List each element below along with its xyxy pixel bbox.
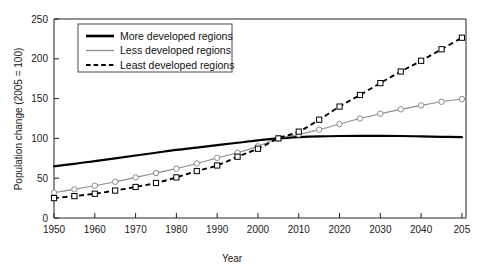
y-tick-label: 150 bbox=[31, 93, 48, 104]
x-tick-label: 1990 bbox=[206, 224, 229, 235]
x-tick-label: 1980 bbox=[165, 224, 188, 235]
legend-label-1[interactable]: Less developed regions bbox=[120, 44, 231, 56]
data-point-marker bbox=[398, 107, 403, 112]
y-tick-label: 0 bbox=[42, 213, 48, 224]
data-point-marker bbox=[316, 127, 321, 132]
data-point-marker bbox=[214, 155, 219, 160]
data-point-marker bbox=[194, 161, 199, 166]
x-tick-label: 205 bbox=[454, 224, 471, 235]
y-tick-label: 50 bbox=[37, 173, 49, 184]
data-point-marker bbox=[398, 69, 403, 74]
data-point-marker bbox=[153, 170, 158, 175]
data-point-marker bbox=[378, 111, 383, 116]
legend-label-2[interactable]: Least developed regions bbox=[120, 59, 234, 71]
data-point-marker bbox=[459, 35, 464, 40]
x-tick-label: 1970 bbox=[124, 224, 147, 235]
data-point-marker bbox=[112, 179, 117, 184]
data-point-marker bbox=[276, 136, 281, 141]
data-point-marker bbox=[51, 190, 56, 195]
data-point-marker bbox=[174, 175, 179, 180]
data-point-marker bbox=[439, 99, 444, 104]
data-point-marker bbox=[92, 183, 97, 188]
x-tick-label: 2030 bbox=[369, 224, 392, 235]
x-tick-label: 1950 bbox=[43, 224, 66, 235]
data-point-marker bbox=[378, 80, 383, 85]
data-point-marker bbox=[153, 180, 158, 185]
x-tick-label: 2020 bbox=[328, 224, 351, 235]
data-point-marker bbox=[174, 166, 179, 171]
chart-legend[interactable]: More developed regionsLess developed reg… bbox=[78, 24, 234, 72]
data-point-marker bbox=[92, 191, 97, 196]
data-point-marker bbox=[215, 163, 220, 168]
data-point-marker bbox=[296, 129, 301, 134]
data-point-marker bbox=[194, 168, 199, 173]
data-point-marker bbox=[357, 116, 362, 121]
x-tick-label: 1960 bbox=[84, 224, 107, 235]
data-point-marker bbox=[72, 187, 77, 192]
y-tick-label: 200 bbox=[31, 53, 48, 64]
y-tick-label: 250 bbox=[31, 14, 48, 25]
data-point-marker bbox=[439, 47, 444, 52]
x-tick-label: 2000 bbox=[247, 224, 270, 235]
data-point-marker bbox=[337, 104, 342, 109]
data-point-marker bbox=[357, 92, 362, 97]
data-point-marker bbox=[459, 96, 464, 101]
data-point-marker bbox=[72, 194, 77, 199]
chart-figure: 0501001502002501950196019701980199020002… bbox=[0, 0, 491, 272]
y-tick-label: 100 bbox=[31, 133, 48, 144]
y-axis-title: Population change (2005 = 100) bbox=[13, 48, 24, 191]
data-point-marker bbox=[133, 184, 138, 189]
data-point-marker bbox=[235, 154, 240, 159]
data-point-marker bbox=[337, 121, 342, 126]
data-point-marker bbox=[133, 175, 138, 180]
legend-label-0[interactable]: More developed regions bbox=[120, 30, 233, 42]
data-point-marker bbox=[418, 103, 423, 108]
x-tick-label: 2010 bbox=[288, 224, 311, 235]
data-point-marker bbox=[419, 58, 424, 63]
data-point-marker bbox=[113, 188, 118, 193]
population-change-line-chart: 0501001502002501950196019701980199020002… bbox=[0, 0, 491, 272]
data-point-marker bbox=[255, 146, 260, 151]
x-tick-label: 2040 bbox=[410, 224, 433, 235]
data-point-marker bbox=[51, 196, 56, 201]
data-point-marker bbox=[317, 117, 322, 122]
x-axis-title: Year bbox=[222, 253, 243, 264]
